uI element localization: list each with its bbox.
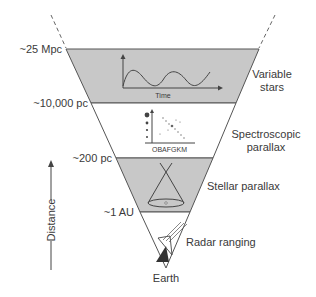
- marker-10000pc: ~10,000 pc: [33, 97, 88, 109]
- marker-200pc: ~200 pc: [73, 152, 113, 164]
- spectral-types-label: OBAFGKM: [152, 146, 187, 153]
- method-radar-ranging: Radar ranging: [186, 236, 256, 248]
- method-stellar-parallax: Stellar parallax: [207, 180, 280, 192]
- marker-1au: ~1 AU: [104, 206, 134, 218]
- right-dashed-extension: [259, 15, 275, 48]
- band-stellar-parallax: [116, 158, 213, 212]
- earth-label: Earth: [153, 272, 179, 284]
- up-arrow-icon: [48, 160, 54, 167]
- distance-axis: Distance: [45, 160, 57, 270]
- method-spectroscopic-line1: Spectroscopic: [231, 128, 301, 140]
- method-variable-stars-line2: stars: [260, 81, 284, 93]
- distance-ladder-diagram: Time OBAFGKM ~2: [0, 0, 316, 297]
- method-spectroscopic-line2: parallax: [247, 141, 286, 153]
- marker-25mpc: ~25 Mpc: [20, 43, 63, 55]
- distance-axis-label: Distance: [45, 199, 57, 242]
- lightcurve-xaxis-label: Time: [155, 92, 170, 99]
- method-variable-stars-line1: Variable: [252, 68, 292, 80]
